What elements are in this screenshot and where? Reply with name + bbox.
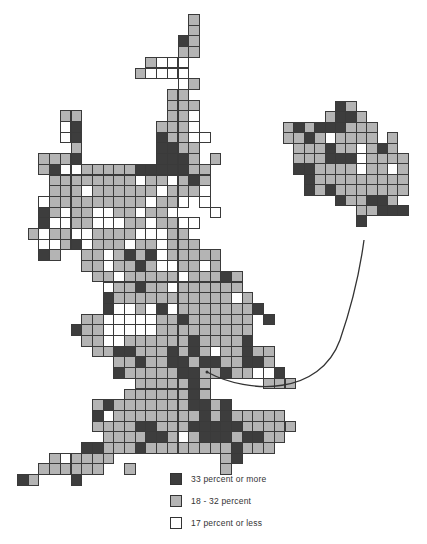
swatch-light-icon — [170, 495, 182, 507]
legend-item-medium: 18 - 32 percent — [170, 490, 266, 512]
legend-label: 17 percent or less — [191, 518, 262, 528]
legend-label: 33 percent or more — [191, 474, 266, 484]
legend: 33 percent or more 18 - 32 percent 17 pe… — [170, 468, 266, 534]
choropleth-map — [0, 0, 427, 544]
legend-label: 18 - 32 percent — [191, 496, 251, 506]
swatch-dark-icon — [170, 473, 182, 485]
arrow-connector — [0, 0, 427, 544]
legend-item-high: 33 percent or more — [170, 468, 266, 490]
legend-item-low: 17 percent or less — [170, 512, 266, 534]
swatch-white-icon — [170, 517, 182, 529]
